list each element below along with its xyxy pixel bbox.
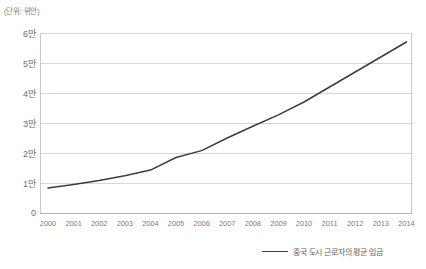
x-axis-tick: 2012 <box>347 219 363 228</box>
y-axis-tick: 1만 <box>2 177 36 190</box>
x-axis-tick: 2011 <box>322 219 338 228</box>
legend-line-swatch <box>262 251 288 252</box>
x-axis-tick: 2013 <box>373 219 389 228</box>
x-axis-tick: 2005 <box>168 219 184 228</box>
chart-container: (단위: 위안) 0 1만 2만 3만 4만 5만 6만 2000 2001 2… <box>0 0 426 269</box>
y-axis-tick: 4만 <box>2 87 36 100</box>
legend-label: 중국 도시 근로자의 평균 임금 <box>293 246 383 257</box>
gridline <box>41 183 413 184</box>
gridline <box>41 33 413 34</box>
x-axis-tick: 2007 <box>219 219 235 228</box>
x-axis-tick: 2008 <box>245 219 261 228</box>
y-axis-tick-group: 0 1만 2만 3만 4만 5만 6만 <box>0 0 36 269</box>
y-axis-tick: 6만 <box>2 27 36 40</box>
plot-area <box>40 33 412 213</box>
y-axis-tick: 5만 <box>2 57 36 70</box>
gridline <box>41 93 413 94</box>
x-axis-tick: 2001 <box>65 219 81 228</box>
gridline <box>41 63 413 64</box>
x-axis-tick: 2006 <box>193 219 209 228</box>
gridline <box>41 153 413 154</box>
legend: 중국 도시 근로자의 평균 임금 <box>262 246 383 257</box>
y-axis-tick: 0 <box>2 208 36 218</box>
x-axis-tick: 2000 <box>40 219 56 228</box>
x-axis-tick: 2010 <box>296 219 312 228</box>
gridline <box>41 123 413 124</box>
x-axis-tick: 2003 <box>117 219 133 228</box>
x-axis-tick: 2014 <box>398 219 414 228</box>
x-axis-baseline <box>40 213 412 214</box>
y-axis-tick: 3만 <box>2 117 36 130</box>
x-axis-tick: 2002 <box>91 219 107 228</box>
x-axis-tick: 2009 <box>270 219 286 228</box>
x-axis-tick: 2004 <box>142 219 158 228</box>
y-axis-tick: 2만 <box>2 147 36 160</box>
